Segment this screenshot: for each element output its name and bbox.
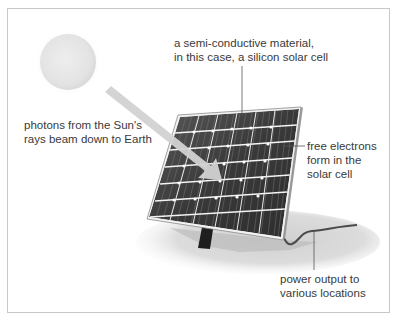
label-line: solar cell	[307, 167, 377, 181]
label-electrons: free electrons form in the solar cell	[307, 139, 377, 181]
label-semiconductor: a semi-conductive material, in this case…	[174, 36, 328, 64]
label-line: a semi-conductive material,	[174, 36, 328, 50]
label-line: power output to	[280, 272, 366, 286]
label-line: photons from the Sun's	[24, 118, 152, 132]
label-line: form in the	[307, 153, 377, 167]
label-line: various locations	[280, 286, 366, 300]
solar-panel-cells	[149, 109, 299, 237]
label-line: free electrons	[307, 139, 377, 153]
label-line: in this case, a silicon solar cell	[174, 50, 328, 64]
label-line: rays beam down to Earth	[24, 132, 152, 146]
sun-icon	[35, 29, 101, 95]
label-power-output: power output to various locations	[280, 272, 366, 300]
label-photons: photons from the Sun's rays beam down to…	[24, 118, 152, 146]
